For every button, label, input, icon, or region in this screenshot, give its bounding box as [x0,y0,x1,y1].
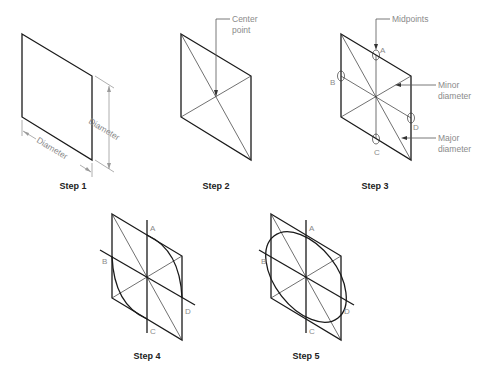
step5-point-c: C [309,327,315,336]
step4-point-c: C [150,327,156,336]
step2-square [181,19,251,160]
step1-label: Step 1 [59,181,86,191]
step4-point-d: D [185,307,191,316]
center-point-label-2: point [232,25,250,35]
major-diameter-label-2: diameter [438,144,471,154]
step3-label: Step 3 [361,181,388,191]
step3-point-a: A [380,46,385,55]
center-point-label-1: Center [232,14,258,24]
step4-point-a: A [150,224,155,233]
step5-label: Step 5 [292,351,319,361]
step4-label: Step 4 [133,351,160,361]
step5-point-b: B [261,257,266,266]
step2-label: Step 2 [202,181,229,191]
step4-construction [100,214,195,340]
minor-diameter-label-1: Minor [438,80,459,90]
minor-diameter-label-2: diameter [438,91,471,101]
step3-point-d: D [413,123,419,132]
step4-point-b: B [102,257,107,266]
major-diameter-label-1: Major [438,133,459,143]
midpoints-label: Midpoints [392,14,428,24]
step1-square [22,34,114,177]
step3-square [338,19,437,160]
step5-point-a: A [309,224,314,233]
step3-point-c: C [374,148,380,157]
step3-point-b: B [330,78,335,87]
step5-point-d: D [344,307,350,316]
step5-ellipse [250,214,363,340]
